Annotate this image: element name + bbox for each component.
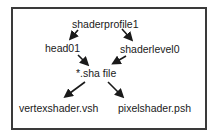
arrow-sha-to-pixelshader <box>108 82 122 96</box>
arrow-root-to-shaderlevel0 <box>122 29 131 39</box>
arrow-head01-to-sha <box>78 55 87 64</box>
arrow-sha-to-vertexshader <box>66 82 85 96</box>
arrows-layer <box>0 0 211 134</box>
arrow-root-to-head01 <box>71 30 78 38</box>
arrow-shaderlevel0-to-sha <box>114 56 126 63</box>
